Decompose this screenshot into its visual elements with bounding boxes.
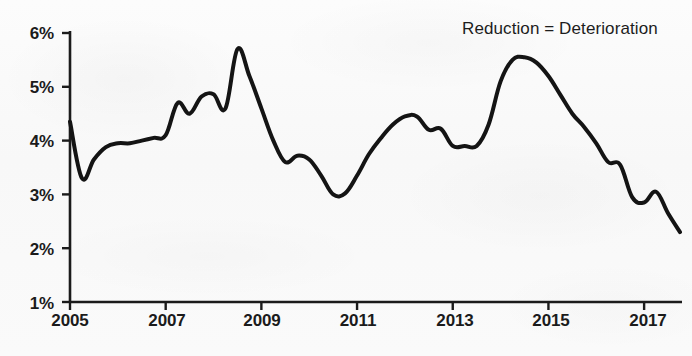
y-tick-label-6: 6%	[8, 24, 54, 44]
x-tick-label-2013: 2013	[415, 311, 495, 331]
chart-figure: 6% 5% 4% 3% 2% 1% 2005 2007 2009 2011 20…	[0, 0, 692, 356]
x-tick-label-2017: 2017	[608, 311, 688, 331]
y-tick-label-5: 5%	[8, 78, 54, 98]
data-series-line	[70, 48, 680, 232]
y-tick-label-3: 3%	[8, 186, 54, 206]
x-tick-label-2015: 2015	[511, 311, 591, 331]
x-tick-label-2007: 2007	[127, 311, 207, 331]
x-tick-label-2011: 2011	[318, 311, 398, 331]
chart-annotation-text: Reduction = Deterioration	[462, 19, 658, 39]
x-tick-label-2009: 2009	[222, 311, 302, 331]
y-tick-label-4: 4%	[8, 132, 54, 152]
line-chart-plot	[0, 0, 692, 356]
x-tick-label-2005: 2005	[30, 311, 110, 331]
y-tick-label-2: 2%	[8, 240, 54, 260]
